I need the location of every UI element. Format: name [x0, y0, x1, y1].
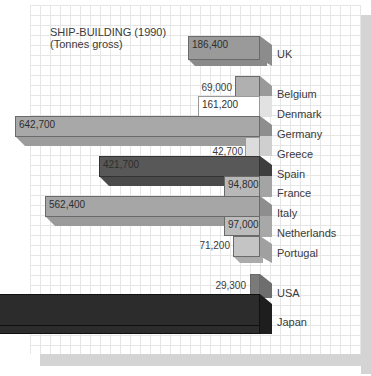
bar-germany: 642,700: [15, 116, 260, 137]
label-belgium: Belgium: [277, 88, 317, 100]
bar-belgium-value: 69,000: [196, 82, 232, 93]
frame-shadow-bottom: [40, 354, 371, 366]
bar-usa-value: 29,300: [208, 280, 246, 291]
chart-title-units: (Tonnes gross): [50, 38, 166, 50]
bar-denmark-side: [260, 96, 272, 117]
bar-netherlands: 97,000: [224, 216, 260, 236]
bar-denmark: 161,200: [198, 96, 260, 117]
bar-france-side: [260, 176, 272, 197]
bar-spain-value: 421,700: [103, 159, 139, 170]
bar-netherlands-side: [260, 216, 272, 237]
label-greece: Greece: [277, 148, 313, 160]
frame-shadow-right: [361, 15, 371, 374]
bar-greece-side: [260, 136, 272, 156]
bar-uk-bottom: [188, 59, 267, 66]
label-japan: Japan: [277, 316, 307, 328]
label-uk: UK: [277, 48, 292, 60]
bar-usa: [250, 274, 260, 296]
label-netherlands: Netherlands: [277, 227, 336, 239]
bar-germany-bottom: [15, 136, 245, 146]
bar-germany-value: 642,700: [19, 119, 55, 130]
bar-italy-value: 562,400: [49, 199, 85, 210]
chart-title-main: SHIP-BUILDING (1990): [50, 26, 166, 38]
bar-spain-bottom: [99, 176, 224, 186]
label-usa: USA: [277, 287, 300, 299]
bar-italy-bottom: [45, 216, 225, 226]
label-portugal: Portugal: [277, 247, 318, 259]
bar-japan-divider: [0, 325, 259, 326]
label-italy: Italy: [277, 207, 297, 219]
bar-france: 94,800: [224, 176, 260, 197]
bar-portugal: [233, 236, 260, 257]
bar-uk: 186,400: [188, 36, 260, 60]
bar-france-value: 94,800: [228, 179, 259, 190]
bar-netherlands-value: 97,000: [228, 219, 259, 230]
bar-japan: [0, 294, 260, 334]
bar-belgium: [235, 76, 260, 97]
label-denmark: Denmark: [277, 108, 322, 120]
label-germany: Germany: [277, 128, 322, 140]
chart-title: SHIP-BUILDING (1990) (Tonnes gross): [50, 26, 166, 50]
bar-greece: [245, 137, 260, 157]
bar-spain: 421,700: [99, 156, 260, 177]
bar-uk-value: 186,400: [192, 39, 228, 50]
bar-denmark-value: 161,200: [202, 99, 238, 110]
label-spain: Spain: [277, 168, 305, 180]
label-france: France: [277, 187, 311, 199]
bar-italy: 562,400: [45, 196, 260, 217]
bar-portugal-value: 71,200: [190, 240, 230, 251]
